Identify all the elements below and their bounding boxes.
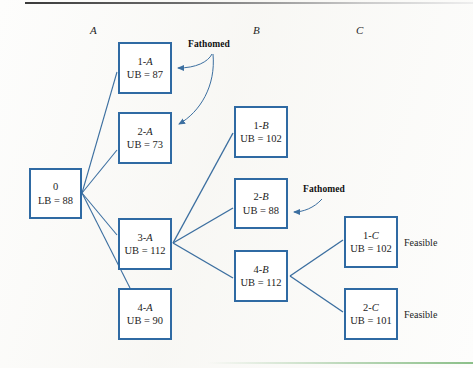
column-header-a: A (90, 24, 97, 36)
node-3a[interactable]: 3-A UB = 112 (118, 218, 172, 270)
node-1a[interactable]: 1-A UB = 87 (118, 42, 172, 94)
node-1a-bound: UB = 87 (127, 68, 163, 81)
node-2a[interactable]: 2-A UB = 73 (118, 112, 172, 164)
annotation-fathomed-2: Fathomed (303, 184, 345, 194)
node-2b-bound: UB = 88 (243, 204, 279, 217)
node-2b[interactable]: 2-B UB = 88 (234, 178, 288, 229)
node-4b-bound: UB = 112 (240, 276, 281, 289)
edge-3a-1b (173, 133, 233, 243)
figure-canvas: A B C 0 LB = 88 1-A UB = 87 2-A UB = 73 … (0, 0, 473, 368)
node-1c[interactable]: 1-C UB = 102 (344, 216, 398, 268)
label-feasible-1c: Feasible (404, 237, 437, 248)
node-root-bound: LB = 88 (38, 194, 73, 207)
column-header-c: C (356, 24, 364, 36)
node-4a-bound: UB = 90 (127, 314, 163, 327)
edge-4b-1c (290, 240, 343, 276)
node-2b-label: 2-B (253, 190, 268, 203)
edge-root-1a (82, 72, 117, 193)
node-4a[interactable]: 4-A UB = 90 (118, 288, 172, 340)
annotation-fathomed-1: Fathomed (188, 39, 230, 49)
node-3a-bound: UB = 112 (124, 244, 165, 257)
node-1c-bound: UB = 102 (350, 242, 392, 255)
fathomed-arrow-to-2a (179, 54, 213, 124)
node-2a-label: 2-A (137, 125, 152, 138)
edge-root-2a (82, 150, 117, 193)
fathomed-arrow-to-1a (178, 54, 212, 68)
node-2a-bound: UB = 73 (127, 138, 163, 151)
edge-3a-4b (173, 243, 233, 278)
node-3a-label: 3-A (137, 231, 152, 244)
edge-group-4b-to-c (290, 240, 343, 312)
node-1a-label: 1-A (137, 55, 152, 68)
label-feasible-2c: Feasible (404, 309, 437, 320)
edge-4b-2c (290, 276, 343, 312)
node-1b[interactable]: 1-B UB = 102 (234, 106, 288, 158)
fathomed-arrow-to-2b (294, 199, 322, 212)
node-1b-bound: UB = 102 (240, 132, 282, 145)
column-header-b: B (253, 24, 260, 36)
node-4b[interactable]: 4-B UB = 112 (234, 250, 288, 302)
node-1b-label: 1-B (253, 119, 268, 132)
edge-group-3a-to-b (173, 133, 233, 278)
node-4b-label: 4-B (253, 263, 268, 276)
node-root[interactable]: 0 LB = 88 (29, 168, 82, 219)
node-4a-label: 4-A (137, 301, 152, 314)
node-1c-label: 1-C (363, 229, 379, 242)
node-root-label: 0 (53, 180, 58, 193)
node-2c-label: 2-C (363, 301, 379, 314)
node-2c[interactable]: 2-C UB = 101 (344, 288, 398, 340)
node-2c-bound: UB = 101 (350, 314, 392, 327)
